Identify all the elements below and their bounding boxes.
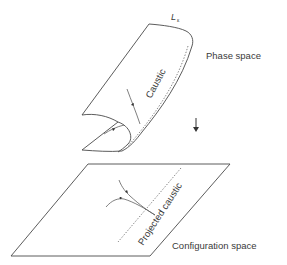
sheet-trajectories xyxy=(104,89,140,134)
phase-space-projection-diagram: L ε Caustic Phase space Projected causti… xyxy=(0,0,287,265)
configuration-space-label: Configuration space xyxy=(172,240,257,251)
manifold-label: L ε xyxy=(171,12,180,23)
caustic-label: Caustic xyxy=(143,67,168,100)
lagrangian-manifold-sheet xyxy=(82,24,193,152)
caustic-line xyxy=(128,46,188,146)
projected-caustic-label: Projected caustic xyxy=(135,180,184,247)
svg-text:L: L xyxy=(171,12,176,22)
svg-text:ε: ε xyxy=(177,17,180,23)
projected-trajectories xyxy=(106,180,155,215)
phase-space-label: Phase space xyxy=(206,50,261,61)
down-arrow-icon xyxy=(193,118,199,132)
